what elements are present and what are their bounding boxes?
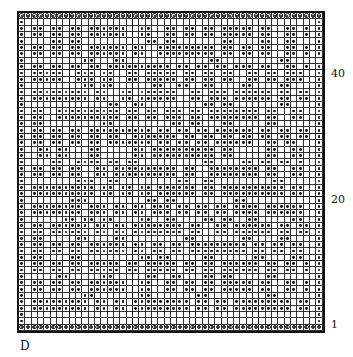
plate-label: D bbox=[20, 339, 30, 353]
row-label-1: 1 bbox=[331, 319, 338, 330]
pattern-chart bbox=[17, 11, 325, 333]
row-label-40: 40 bbox=[331, 68, 345, 79]
ringed-dot-cell bbox=[316, 325, 322, 331]
pattern-grid bbox=[19, 13, 323, 331]
row-label-20: 20 bbox=[331, 194, 345, 205]
